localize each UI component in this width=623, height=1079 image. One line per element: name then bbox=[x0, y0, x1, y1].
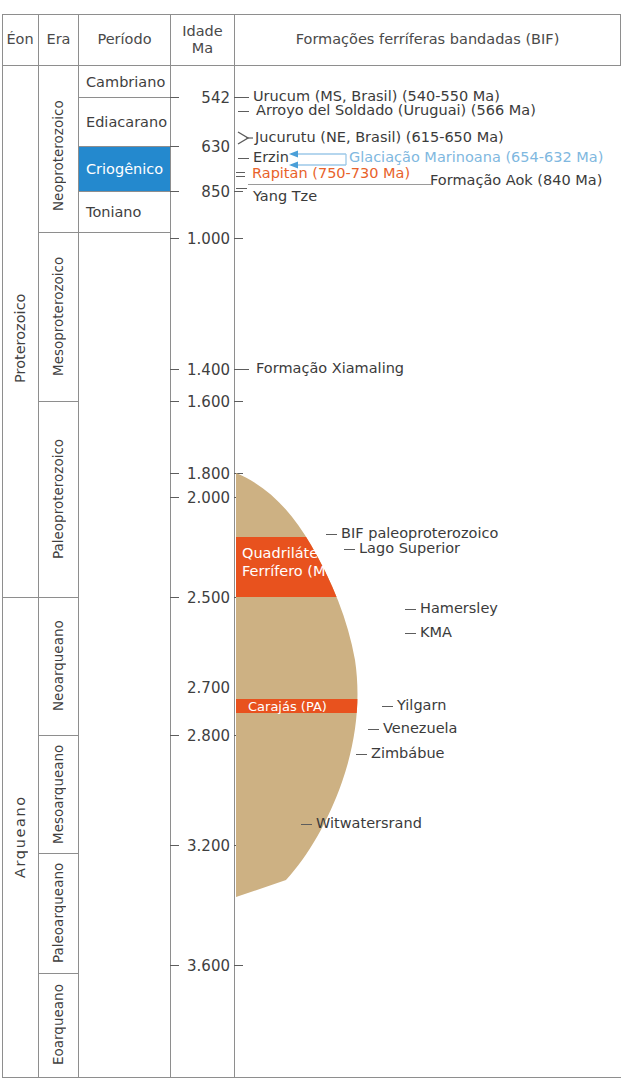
era-mesoproterozoico[interactable]: Mesoproterozoico bbox=[38, 232, 78, 401]
age-label-2800: 2.800 bbox=[168, 727, 230, 745]
periodo-divider-toniano-bottom bbox=[78, 232, 170, 233]
leader-hamersley bbox=[405, 609, 416, 610]
leader-yang-tze bbox=[236, 188, 247, 189]
eon-proterozoico[interactable]: Proterozoico bbox=[2, 80, 38, 597]
leader-bif-paleoproterozoico bbox=[326, 534, 337, 535]
leader-venezuela bbox=[368, 729, 379, 730]
era-paleoarqueano[interactable]: Paleoarqueano bbox=[38, 853, 78, 973]
age-label-1400: 1.400 bbox=[168, 361, 230, 379]
header-periodo-label: Período bbox=[97, 31, 151, 47]
header-periodo: Período bbox=[79, 14, 170, 65]
era-neoarqueano-label: Neoarqueano bbox=[50, 621, 66, 712]
annotation-glaciacao-marinoana: Glaciação Marinoana (654-632 Ma) bbox=[349, 150, 603, 166]
annotation-zimbabue: Zimbábue bbox=[371, 746, 445, 762]
arrow-jucurutu-icon bbox=[236, 129, 254, 147]
header-formacoes-label: Formações ferríferas bandadas (BIF) bbox=[296, 31, 560, 47]
era-neoproterozoico-label: Neoproterozoico bbox=[50, 101, 66, 212]
leader-erzin bbox=[238, 158, 249, 159]
header-idade-unit: Ma bbox=[192, 40, 213, 56]
era-eoarqueano-label: Eoarqueano bbox=[50, 985, 66, 1066]
header-idade-label: Idade bbox=[182, 23, 223, 39]
band-label-quadrilatero-line1: Quadrilátero bbox=[242, 545, 342, 563]
periodo-toniano[interactable]: Toniano bbox=[79, 192, 170, 232]
age-label-3600: 3.600 bbox=[168, 957, 230, 975]
header-era-label: Era bbox=[46, 31, 70, 47]
tick-right-1800 bbox=[234, 473, 243, 474]
age-label-3200: 3.200 bbox=[168, 837, 230, 855]
tick-right-2000 bbox=[234, 497, 243, 498]
tick-right-2500 bbox=[234, 597, 243, 598]
era-paleoarqueano-label: Paleoarqueano bbox=[50, 863, 66, 963]
age-label-1800: 1.800 bbox=[168, 465, 230, 483]
eon-proterozoico-label: Proterozoico bbox=[12, 294, 28, 383]
era-eoarqueano[interactable]: Eoarqueano bbox=[38, 973, 78, 1077]
annotation-arroyo-del-soldado: Arroyo del Soldado (Uruguai) (566 Ma) bbox=[256, 103, 536, 119]
age-label-2700: 2.700 bbox=[168, 679, 230, 697]
header-eon-label: Éon bbox=[6, 31, 33, 47]
age-label-850: 850 bbox=[172, 183, 230, 201]
annotation-witwatersrand: Witwatersrand bbox=[316, 816, 422, 832]
era-paleoproterozoico[interactable]: Paleoproterozoico bbox=[38, 401, 78, 597]
annotation-hamersley: Hamersley bbox=[420, 601, 498, 617]
frame-bottom-line bbox=[2, 1077, 621, 1078]
bif-tan-area bbox=[236, 473, 357, 897]
annotation-formacao-aok: Formação Aok (840 Ma) bbox=[430, 173, 602, 189]
periodo-cambriano[interactable]: Cambriano bbox=[79, 66, 170, 97]
annotation-yang-tze: Yang Tze bbox=[253, 189, 317, 205]
tick-right-1600 bbox=[234, 401, 243, 402]
age-label-542: 542 bbox=[172, 89, 230, 107]
age-label-2500: 2.500 bbox=[168, 589, 230, 607]
age-label-1000: 1.000 bbox=[168, 230, 230, 248]
annotation-venezuela: Venezuela bbox=[383, 721, 457, 737]
era-mesoarqueano[interactable]: Mesoarqueano bbox=[38, 735, 78, 853]
leader-arroyo-del-soldado bbox=[238, 111, 249, 112]
leader-witwatersrand bbox=[301, 824, 312, 825]
leader-rapitan-2 bbox=[236, 176, 245, 177]
age-label-1600: 1.600 bbox=[168, 393, 230, 411]
annotation-jucurutu: Jucurutu (NE, Brasil) (615-650 Ma) bbox=[255, 130, 504, 146]
col-rule-idade-formacoes bbox=[234, 14, 235, 1078]
periodo-criogenico[interactable]: Criogênico bbox=[79, 147, 170, 191]
era-neoproterozoico[interactable]: Neoproterozoico bbox=[38, 80, 78, 232]
frame-right-line bbox=[620, 14, 621, 65]
tick-right-850 bbox=[234, 191, 243, 192]
annotation-erzin: Erzin bbox=[253, 150, 289, 166]
col-rule-periodo-idade bbox=[170, 14, 171, 1078]
leader-urucum bbox=[238, 97, 249, 98]
periodo-ediacarano[interactable]: Ediacarano bbox=[79, 98, 170, 146]
header-formacoes: Formações ferríferas bandadas (BIF) bbox=[235, 14, 620, 65]
tick-right-2800 bbox=[234, 735, 243, 736]
periodo-cambriano-label: Cambriano bbox=[86, 74, 165, 90]
leader-zimbabue bbox=[356, 754, 367, 755]
header-eon: Éon bbox=[2, 14, 38, 65]
age-label-630: 630 bbox=[172, 138, 230, 156]
leader-yilgarn bbox=[382, 706, 393, 707]
annotation-rapitan: Rapitan (750-730 Ma) bbox=[252, 166, 410, 182]
band-label-carajas-text: Carajás (PA) bbox=[248, 699, 327, 714]
periodo-criogenico-label: Criogênico bbox=[86, 161, 163, 177]
era-mesoproterozoico-label: Mesoproterozoico bbox=[50, 257, 66, 376]
annotation-kma: KMA bbox=[420, 625, 452, 641]
header-idade: Idade Ma bbox=[171, 14, 234, 65]
periodo-toniano-label: Toniano bbox=[86, 204, 141, 220]
geologic-timescale-chart: Éon Era Período Idade Ma Formações ferrí… bbox=[0, 0, 623, 1079]
age-label-2000: 2.000 bbox=[168, 489, 230, 507]
annotation-yilgarn: Yilgarn bbox=[397, 698, 446, 714]
header-era: Era bbox=[39, 14, 78, 65]
eon-arqueano[interactable]: Arqueano bbox=[2, 597, 38, 1077]
eon-arqueano-label: Arqueano bbox=[12, 796, 28, 879]
era-paleoproterozoico-label: Paleoproterozoico bbox=[50, 439, 66, 559]
annotation-lago-superior: Lago Superior bbox=[359, 541, 460, 557]
era-mesoarqueano-label: Mesoarqueano bbox=[50, 744, 66, 843]
band-label-quadrilatero: Quadrilátero Ferrífero (MG) bbox=[242, 545, 342, 580]
tick-right-3600 bbox=[234, 965, 243, 966]
tick-right-1000 bbox=[234, 238, 243, 239]
leader-formacao-xiamaling bbox=[238, 369, 249, 370]
tick-right-3200 bbox=[234, 845, 243, 846]
rapitan-underline bbox=[248, 184, 431, 185]
leader-lago-superior bbox=[344, 549, 355, 550]
band-label-quadrilatero-line2: Ferrífero (MG) bbox=[242, 563, 342, 581]
band-label-carajas: Carajás (PA) bbox=[248, 699, 327, 715]
era-neoarqueano[interactable]: Neoarqueano bbox=[38, 597, 78, 735]
annotation-formacao-xiamaling: Formação Xiamaling bbox=[256, 361, 404, 377]
